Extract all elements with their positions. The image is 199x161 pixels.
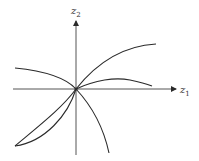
lens-lower-left-inner: [15, 89, 76, 146]
x-axis-label: z1: [180, 85, 190, 98]
curve-origin-hump-right: [76, 79, 152, 89]
origin-point: [74, 87, 77, 90]
curve-origin-to-upper-right: [76, 44, 156, 89]
phase-diagram: [0, 0, 199, 161]
y-axis-label: z2: [71, 6, 81, 19]
lens-lower-left-outer: [15, 89, 76, 146]
curve-upper-left-to-lower-right: [15, 68, 109, 153]
